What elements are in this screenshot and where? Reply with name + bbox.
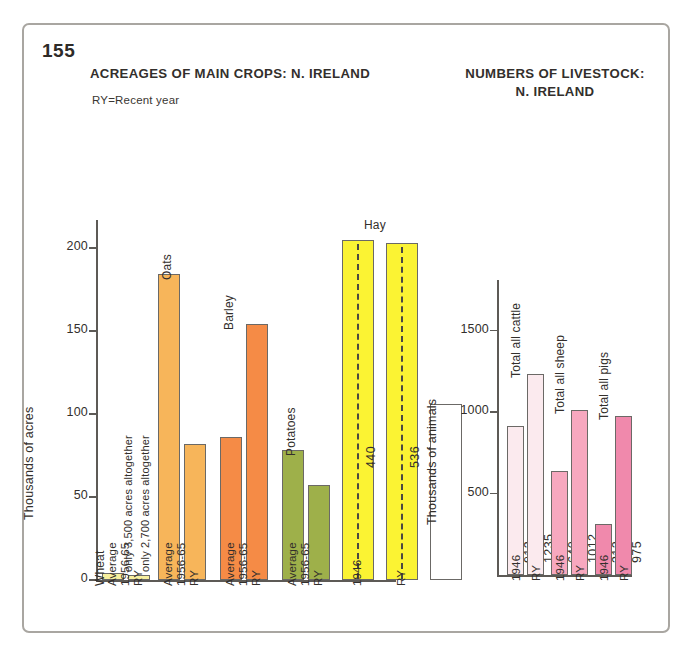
crop-label-barley: Barley [222, 295, 236, 330]
right-chart-tick-label: 500 [445, 485, 489, 499]
left-chart-xcat: 1956-65 [237, 543, 249, 586]
left-chart-xcat: Average [106, 542, 118, 586]
left-chart-xcat: RY [250, 570, 262, 586]
left-chart-xcat: 1956-65 [175, 543, 187, 586]
right-chart-plot: 50010001500Thousands of animals9131235To… [497, 290, 647, 585]
left-chart-tick-label: 200 [48, 239, 88, 253]
wheat-note-1: only 2,700 acres altogether [139, 435, 151, 572]
left-chart-tick [89, 496, 97, 497]
right-chart-tick [490, 330, 498, 331]
left-chart-tick [89, 413, 97, 414]
right-chart-xcat: 1946 [598, 555, 610, 581]
left-chart-title: ACREAGES OF MAIN CROPS: N. IRELAND [80, 65, 380, 83]
left-chart-xcat: 1956-65 [119, 543, 131, 586]
right-chart-tick [490, 493, 498, 494]
right-chart-y-axis [497, 280, 499, 575]
right-chart-xcat: RY [618, 565, 630, 581]
bar-hay-0[interactable] [342, 240, 374, 580]
right-chart-y-axis-title: Thousands of animals [425, 399, 439, 525]
livestock-group-label-2: Total all pigs [597, 352, 611, 420]
livestock-group-label-1: Total all sheep [553, 335, 567, 414]
left-chart-xcat: RY [395, 570, 407, 586]
bar-oats-0[interactable] [158, 274, 180, 580]
left-chart-xcat: Average [162, 542, 174, 586]
bar-potatoes-1[interactable] [308, 485, 330, 580]
crop-label-oats: Oats [160, 255, 174, 281]
left-chart-tick [89, 330, 97, 331]
hay-value-label: 440 [364, 446, 378, 468]
left-chart-plot: 050100150200Thousands of acresWheatonly … [96, 215, 396, 585]
left-chart-tick [89, 247, 97, 248]
left-chart-xcat: 1946 [351, 560, 363, 586]
bar-truncation-dash [357, 244, 359, 579]
right-chart-title: NUMBERS OF LIVESTOCK: N. IRELAND [430, 65, 680, 100]
crop-label-potatoes: Potatoes [284, 408, 298, 457]
left-chart-xcat: Average [224, 542, 236, 586]
right-chart-title-line1: NUMBERS OF LIVESTOCK: [465, 66, 644, 81]
crop-label-wheat: Wheat [93, 551, 107, 586]
left-chart-xcat: RY [188, 570, 200, 586]
crop-label-hay: Hay [364, 218, 386, 232]
left-chart-tick-label: 150 [48, 322, 88, 336]
left-chart-xcat: 1956-65 [299, 543, 311, 586]
right-chart-xcat: RY [574, 565, 586, 581]
left-chart-y-axis-title: Thousands of acres [22, 407, 36, 520]
right-chart-title-line2: N. IRELAND [430, 83, 680, 101]
left-chart-tick-label: 0 [48, 571, 88, 585]
bar-truncation-dash [401, 247, 403, 579]
left-chart-xcat: RY [312, 570, 324, 586]
left-chart-xcat: Average [286, 542, 298, 586]
left-chart-tick-label: 100 [48, 405, 88, 419]
livestock-group-label-0: Total all cattle [509, 303, 523, 378]
hay-value-label: 536 [408, 446, 422, 468]
left-chart-y-axis [96, 220, 98, 580]
right-chart-xcat: 1946 [554, 555, 566, 581]
bar-hay-1[interactable] [386, 243, 418, 580]
page-number: 155 [42, 40, 75, 62]
right-chart-xcat: 1946 [510, 555, 522, 581]
left-chart-tick-label: 50 [48, 488, 88, 502]
recent-year-note: RY=Recent year [92, 94, 179, 106]
bar-barley-1[interactable] [246, 324, 268, 580]
bar-oats-1[interactable] [184, 444, 206, 580]
left-chart-xcat: RY [132, 570, 144, 586]
right-chart-tick-label: 1500 [445, 322, 489, 336]
right-chart-xcat: RY [530, 565, 542, 581]
livestock-value-label: 975 [630, 541, 644, 563]
right-chart-tick-label: 1000 [445, 403, 489, 417]
right-chart-tick [490, 411, 498, 412]
